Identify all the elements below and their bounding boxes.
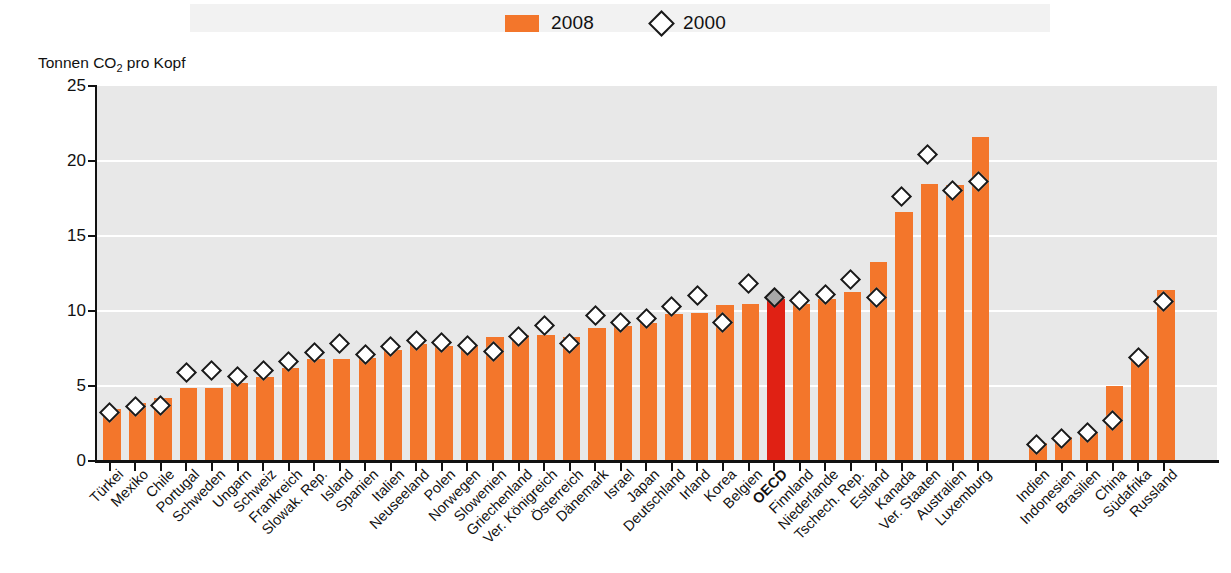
legend-bar-swatch-icon (505, 15, 539, 32)
marker-2000-ver-k-nigreich (533, 315, 554, 336)
legend-diamond-marker-icon (648, 10, 675, 37)
marker-2000-kanada (891, 186, 912, 207)
chart-page: 2008 2000 Tonnen CO2 pro Kopf 0510152025… (0, 0, 1231, 573)
marker-2000-portugal (176, 361, 197, 382)
legend-item-2008: 2008 (505, 12, 594, 34)
y-tick-mark-10 (88, 310, 97, 312)
y-tick-label-10: 10 (46, 301, 86, 321)
gridline-20 (97, 160, 1217, 162)
y-tick-label-5: 5 (46, 376, 86, 396)
legend-label-2000: 2000 (683, 12, 726, 34)
x-axis-category-labels: TürkeiMexikoChilePortugalSchwedenUngarnS… (95, 466, 1219, 573)
legend-label-2008: 2008 (551, 12, 594, 34)
y-tick-label-25: 25 (46, 76, 86, 96)
marker-2000-irland (687, 285, 708, 306)
y-tick-mark-25 (88, 85, 97, 87)
y-tick-mark-15 (88, 235, 97, 237)
y-axis-title-main: Tonnen CO (38, 54, 116, 71)
marker-2000-island (329, 333, 350, 354)
plot-area (95, 86, 1217, 461)
marker-2000-schweden (201, 360, 222, 381)
y-tick-label-0: 0 (46, 451, 86, 471)
y-tick-mark-20 (88, 160, 97, 162)
y-tick-label-20: 20 (46, 151, 86, 171)
marker-2000-belgien (738, 273, 759, 294)
gridline-15 (97, 235, 1217, 237)
gridline-10 (97, 310, 1217, 312)
y-tick-mark-5 (88, 385, 97, 387)
marker-2000-tschech-rep- (840, 268, 861, 289)
marker-2000-d-nemark (585, 304, 606, 325)
chart-legend: 2008 2000 (0, 6, 1231, 40)
bar-australien (946, 185, 964, 461)
y-tick-label-15: 15 (46, 226, 86, 246)
legend-item-2000: 2000 (652, 12, 726, 34)
bar-belgien (742, 304, 760, 462)
y-axis-title: Tonnen CO2 pro Kopf (38, 54, 185, 74)
y-axis-title-rest: pro Kopf (123, 54, 186, 71)
y-axis-tick-labels: 0510152025 (38, 86, 86, 461)
